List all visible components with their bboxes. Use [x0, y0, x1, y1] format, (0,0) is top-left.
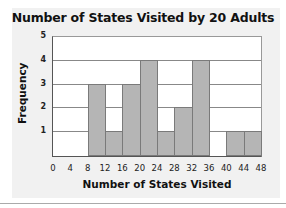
- x-tick-label: 20: [132, 163, 148, 173]
- histogram-bar: [140, 60, 158, 156]
- x-tick-label: 16: [114, 163, 130, 173]
- x-tick-label: 48: [253, 163, 269, 173]
- histogram-bar: [105, 131, 123, 156]
- x-tick-label: 8: [80, 163, 96, 173]
- y-tick-label: 3: [36, 79, 46, 88]
- histogram-bar: [244, 131, 262, 156]
- y-tick-label: 1: [36, 126, 46, 135]
- y-axis-label: Frequency: [16, 64, 28, 124]
- plot-area: [52, 36, 262, 157]
- x-tick-label: 40: [218, 163, 234, 173]
- histogram-bar: [122, 84, 140, 156]
- y-tick-label: 2: [36, 102, 46, 111]
- histogram-bar: [174, 107, 192, 156]
- x-tick-label: 12: [97, 163, 113, 173]
- x-tick-label: 36: [201, 163, 217, 173]
- x-tick-label: 44: [236, 163, 252, 173]
- x-tick-label: 28: [166, 163, 182, 173]
- histogram-bar: [157, 131, 175, 156]
- x-tick-label: 0: [45, 163, 61, 173]
- y-tick-label: 4: [36, 55, 46, 64]
- histogram-bar: [192, 60, 210, 156]
- x-axis-label: Number of States Visited: [52, 178, 262, 190]
- y-tick-label: 5: [36, 31, 46, 40]
- histogram-bar: [88, 84, 106, 156]
- x-tick-label: 24: [149, 163, 165, 173]
- x-tick-label: 32: [184, 163, 200, 173]
- x-tick-label: 4: [62, 163, 78, 173]
- histogram-bar: [226, 131, 244, 156]
- chart-title: Number of States Visited by 20 Adults: [0, 10, 286, 25]
- divider: [0, 203, 286, 204]
